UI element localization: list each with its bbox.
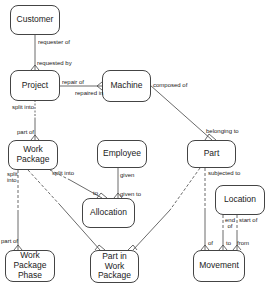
label-belonging-to: belonging to — [206, 128, 239, 134]
label-to-movement: to — [226, 240, 231, 246]
entity-part[interactable]: Part — [187, 140, 236, 168]
label-end-of: end of — [225, 217, 235, 229]
entity-machine[interactable]: Machine — [102, 70, 151, 102]
entity-location[interactable]: Location — [215, 185, 265, 215]
label-part-of-wp: part of — [17, 129, 34, 135]
label-given-to: given to — [120, 191, 141, 197]
label-given: given — [120, 172, 134, 178]
label-split-into-alloc: split into — [52, 170, 74, 176]
label-repaired-in: repaired in — [75, 90, 103, 96]
label-requested-by: requested by — [37, 60, 72, 66]
entity-employee[interactable]: Employee — [97, 140, 147, 168]
label-repair-of: repair of — [62, 79, 84, 85]
label-to-alloc: to — [93, 190, 98, 196]
entity-part-in-work-package[interactable]: Part in Work Package — [90, 250, 139, 283]
label-part-of-phase: part of — [1, 238, 18, 244]
label-requester-of: requester of — [38, 39, 70, 45]
label-split-into-project: split into — [12, 104, 34, 110]
entity-work-package[interactable]: Work Package — [8, 140, 58, 170]
label-from-movement: from — [237, 240, 249, 246]
entity-work-package-phase[interactable]: Work Package Phase — [5, 250, 55, 282]
label-of-movement: of — [208, 240, 213, 246]
entity-allocation[interactable]: Allocation — [82, 198, 135, 228]
label-start-of: start of — [239, 217, 257, 223]
label-composed-of: composed of — [153, 82, 187, 88]
label-subjected-to: subjected to — [208, 170, 240, 176]
entity-project[interactable]: Project — [10, 70, 60, 101]
label-split-into-phase: split into — [7, 171, 18, 183]
entity-movement[interactable]: Movement — [193, 250, 245, 282]
entity-customer[interactable]: Customer — [10, 5, 60, 35]
